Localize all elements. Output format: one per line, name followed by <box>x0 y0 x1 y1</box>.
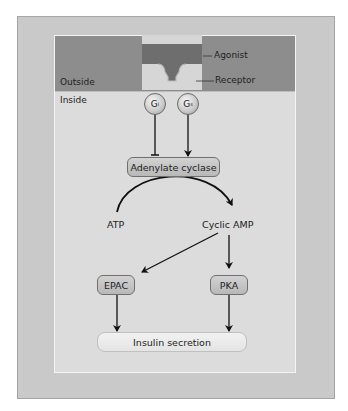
inside-label: Inside <box>60 95 87 105</box>
agonist-label: Agonist <box>214 50 248 60</box>
insulin-secretion-label: Insulin secretion <box>133 337 211 348</box>
pka-label: PKA <box>220 280 238 291</box>
gi-letter: G <box>151 99 158 109</box>
adenylate-cyclase-node: Adenylate cyclase <box>127 157 220 177</box>
gi-subscript: i <box>158 101 159 107</box>
gs-subscript: s <box>190 101 193 107</box>
adenylate-cyclase-label: Adenylate cyclase <box>130 162 216 173</box>
atp-label: ATP <box>107 219 124 230</box>
gi-protein: Gi <box>144 93 166 115</box>
outside-label: Outside <box>60 77 95 87</box>
insulin-secretion-node: Insulin secretion <box>97 332 247 352</box>
epac-node: EPAC <box>97 275 135 295</box>
receptor-label: Receptor <box>215 75 255 85</box>
cyclic-amp-label: Cyclic AMP <box>202 219 253 230</box>
epac-label: EPAC <box>104 280 128 291</box>
pka-node: PKA <box>210 275 248 295</box>
gs-letter: G <box>183 99 190 109</box>
gs-protein: Gs <box>177 93 199 115</box>
